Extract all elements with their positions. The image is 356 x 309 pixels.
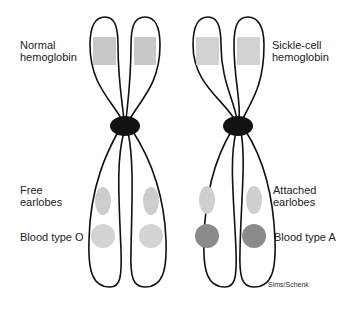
gene-blood-type-a	[242, 224, 266, 248]
gene-blood-type-a	[195, 224, 219, 248]
centromere	[223, 116, 253, 136]
label-line: hemoglobin	[20, 51, 77, 63]
chromatid-arm	[126, 17, 160, 122]
chromatid-arm	[90, 17, 124, 122]
gene-band-normal-hemoglobin	[93, 37, 116, 65]
gene-band-sickle-cell-hemoglobin	[237, 37, 260, 65]
label-line: Normal	[20, 39, 77, 51]
gene-free-earlobes	[143, 187, 159, 215]
label-line: earlobes	[20, 196, 62, 208]
label-blood-type-o: Blood type O	[20, 231, 84, 243]
gene-attached-earlobes	[199, 186, 215, 214]
gene-band-normal-hemoglobin	[134, 37, 156, 65]
chromatid-arm	[193, 17, 237, 122]
gene-attached-earlobes	[246, 186, 262, 214]
label-line: earlobes	[273, 196, 316, 208]
gene-band-sickle-cell-hemoglobin	[196, 37, 219, 65]
gene-free-earlobes	[95, 187, 111, 215]
gene-blood-type-o	[139, 224, 163, 248]
chromatid-arm	[234, 17, 264, 122]
label-free-earlobes: Free earlobes	[20, 184, 62, 208]
label-blood-type-a: Blood type A	[274, 231, 336, 243]
label-line: Sickle-cell	[272, 39, 329, 51]
label-attached-earlobes: Attached earlobes	[273, 184, 316, 208]
label-line: Attached	[273, 184, 316, 196]
centromere	[110, 116, 140, 136]
gene-blood-type-o	[91, 224, 115, 248]
label-sickle-cell-hemoglobin: Sickle-cell hemoglobin	[272, 39, 329, 63]
label-normal-hemoglobin: Normal hemoglobin	[20, 39, 77, 63]
credit-text: Sims/Schenk	[268, 281, 309, 288]
label-line: hemoglobin	[272, 51, 329, 63]
label-line: Free	[20, 184, 62, 196]
